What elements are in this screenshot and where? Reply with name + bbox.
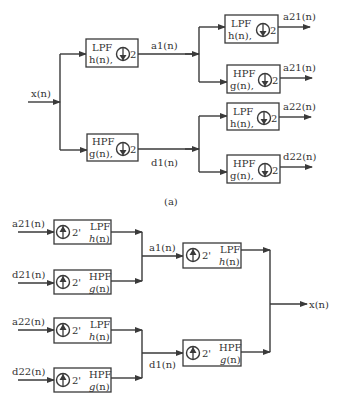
hpf-downsample-block-2b: HPF g(n), 2 <box>227 155 280 183</box>
upsample-lpf-block-2a: 2' LPF h(n) <box>54 220 111 244</box>
filter-name: LPF <box>92 42 112 53</box>
filter-name: HPF <box>89 271 111 282</box>
input-label: a21(n) <box>12 218 45 229</box>
filter-function: h(n) <box>89 233 110 244</box>
filter-function: g(n), <box>230 170 254 181</box>
downsample-factor: 2 <box>272 75 278 86</box>
lpf-downsample-block-2a: LPF h(n), 2 <box>225 15 278 43</box>
filter-function: g(n) <box>89 283 110 294</box>
d1-label: d1(n) <box>151 157 178 168</box>
filter-name: HPF <box>89 369 111 380</box>
filter-function: h(n), <box>89 54 113 65</box>
reconstruction-tree: a21(n) d21(n) a22(n) d22(n) 2' LPF h(n) <box>12 218 329 392</box>
input-label: a22(n) <box>12 316 45 327</box>
filter-function: h(n) <box>219 256 240 267</box>
filter-name: LPF <box>231 18 251 29</box>
downsample-icon <box>257 24 270 37</box>
filter-function: h(n), <box>228 30 252 41</box>
filter-name: HPF <box>92 136 114 147</box>
upsample-factor: 2' <box>72 375 81 386</box>
output-label: a21(n) <box>283 11 316 22</box>
lpf-downsample-block-1: LPF h(n), 2 <box>86 39 138 67</box>
upsample-icon <box>57 226 70 239</box>
downsample-factor: 2 <box>270 25 276 36</box>
downsample-icon <box>117 48 130 61</box>
upsample-icon <box>57 324 70 337</box>
decomposition-tree: x(n) LPF h(n), 2 a1(n) HPF g(n), <box>28 11 316 207</box>
lpf-downsample-block-2b: LPF h(n), 2 <box>227 103 279 130</box>
upsample-hpf-block-2a: 2' HPF g(n) <box>54 270 111 294</box>
output-label: a21(n) <box>283 62 316 73</box>
a1-label: a1(n) <box>149 242 176 253</box>
filter-function: g(n), <box>89 148 113 159</box>
filter-name: HPF <box>233 158 255 169</box>
input-label: x(n) <box>31 88 51 99</box>
output-label: d22(n) <box>283 151 316 162</box>
input-label: d22(n) <box>12 366 45 377</box>
hpf-downsample-block-2a: HPF g(n), 2 <box>227 65 280 93</box>
upsample-factor: 2' <box>72 325 81 336</box>
upsample-factor: 2' <box>72 277 81 288</box>
output-label: x(n) <box>309 299 329 310</box>
output-label: a22(n) <box>283 101 316 112</box>
upsample-factor: 2' <box>202 348 211 359</box>
upsample-icon <box>57 276 70 289</box>
filter-name: HPF <box>233 68 255 79</box>
upsample-lpf-block-1: 2' LPF h(n) <box>183 243 241 268</box>
upsample-icon <box>187 347 200 360</box>
downsample-icon <box>259 74 272 87</box>
filter-name: LPF <box>220 244 240 255</box>
filter-name: HPF <box>219 342 241 353</box>
downsample-icon <box>258 112 271 125</box>
filter-function: g(n), <box>230 80 254 91</box>
downsample-factor: 2 <box>272 165 278 176</box>
hpf-downsample-block-1: HPF g(n), 2 <box>87 134 138 161</box>
filter-function: g(n) <box>220 354 241 365</box>
wavelet-filter-bank-diagram: x(n) LPF h(n), 2 a1(n) HPF g(n), <box>0 0 342 395</box>
filter-function: g(n) <box>89 381 110 392</box>
upsample-factor: 2' <box>202 250 211 261</box>
downsample-icon <box>117 143 130 156</box>
filter-name: LPF <box>233 106 253 117</box>
downsample-icon <box>259 164 272 177</box>
upsample-hpf-block-2b: 2' HPF g(n) <box>54 368 111 392</box>
downsample-factor: 2 <box>271 113 277 124</box>
input-label: d21(n) <box>12 269 45 280</box>
upsample-hpf-block-1: 2' HPF g(n) <box>183 340 241 366</box>
downsample-factor: 2 <box>130 144 136 155</box>
downsample-factor: 2 <box>130 49 136 60</box>
upsample-icon <box>57 374 70 387</box>
filter-name: LPF <box>90 221 110 232</box>
filter-name: LPF <box>90 319 110 330</box>
a1-label: a1(n) <box>151 40 178 51</box>
upsample-factor: 2' <box>72 227 81 238</box>
upsample-icon <box>187 249 200 262</box>
upsample-lpf-block-2b: 2' LPF h(n) <box>54 318 111 343</box>
d1-label: d1(n) <box>149 359 176 370</box>
filter-function: h(n) <box>89 331 110 342</box>
filter-function: h(n), <box>230 118 254 129</box>
caption-a: (a) <box>164 196 178 207</box>
